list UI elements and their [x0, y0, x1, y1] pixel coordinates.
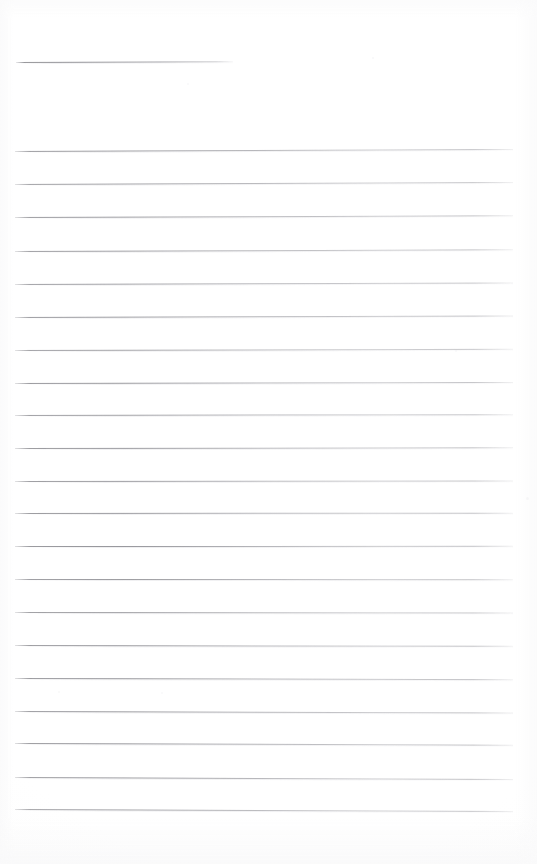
rule-line: [15, 777, 513, 780]
ruled-lines-layer: [0, 0, 537, 864]
rule-line: [15, 349, 513, 351]
rule-line: [15, 316, 513, 318]
rule-line: [15, 282, 513, 285]
rule-line: [15, 447, 513, 449]
scan-speckle: [372, 57, 374, 59]
rule-line: [15, 414, 513, 416]
rule-line: [15, 743, 513, 746]
rule-line: [15, 711, 513, 714]
rule-line: [15, 249, 513, 252]
scan-speckle: [187, 83, 189, 85]
rule-line: [15, 480, 513, 482]
rule-line: [15, 612, 513, 614]
scan-speckle: [455, 350, 457, 352]
rule-line: [15, 149, 513, 152]
rule-line: [15, 809, 513, 812]
rule-line: [15, 381, 513, 383]
rule-line: [15, 579, 513, 580]
scan-speckle: [161, 692, 163, 694]
rule-line: [15, 678, 513, 680]
scan-speckle: [58, 691, 60, 693]
rule-line: [15, 215, 513, 218]
rule-line: [15, 645, 513, 647]
scanned-page: [0, 0, 537, 864]
rule-line: [15, 513, 513, 514]
rule-line: [15, 182, 513, 185]
rule-line-short: [16, 61, 233, 63]
scan-speckle: [526, 497, 529, 500]
rule-line: [15, 546, 513, 547]
